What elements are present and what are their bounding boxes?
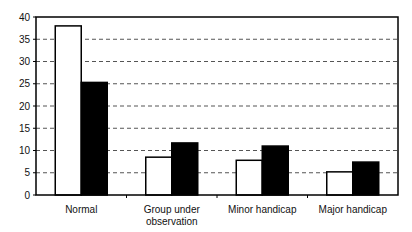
bar xyxy=(236,160,262,195)
x-axis-labels: NormalGroup underobservationMinor handic… xyxy=(65,195,387,227)
y-tick-label: 35 xyxy=(19,34,31,45)
bar-chart: 0510152025303540 NormalGroup underobserv… xyxy=(0,0,412,232)
category-label: observation xyxy=(146,216,198,227)
category-label: Minor handicap xyxy=(228,204,297,215)
y-tick-label: 15 xyxy=(19,123,31,134)
y-tick-label: 25 xyxy=(19,78,31,89)
y-tick-label: 40 xyxy=(19,12,31,23)
bar xyxy=(172,143,198,195)
y-axis-ticks: 0510152025303540 xyxy=(19,12,36,201)
bars xyxy=(55,26,379,195)
y-tick-label: 0 xyxy=(24,190,30,201)
bar xyxy=(327,172,353,195)
category-label: Group under xyxy=(144,204,201,215)
category-label: Normal xyxy=(65,204,97,215)
y-tick-label: 30 xyxy=(19,56,31,67)
y-tick-label: 10 xyxy=(19,145,31,156)
bar xyxy=(262,146,288,195)
bar xyxy=(81,82,107,195)
category-label: Major handicap xyxy=(319,204,388,215)
bar xyxy=(353,162,379,195)
bar xyxy=(146,157,172,195)
bar xyxy=(55,26,81,195)
y-tick-label: 5 xyxy=(24,167,30,178)
y-tick-label: 20 xyxy=(19,101,31,112)
